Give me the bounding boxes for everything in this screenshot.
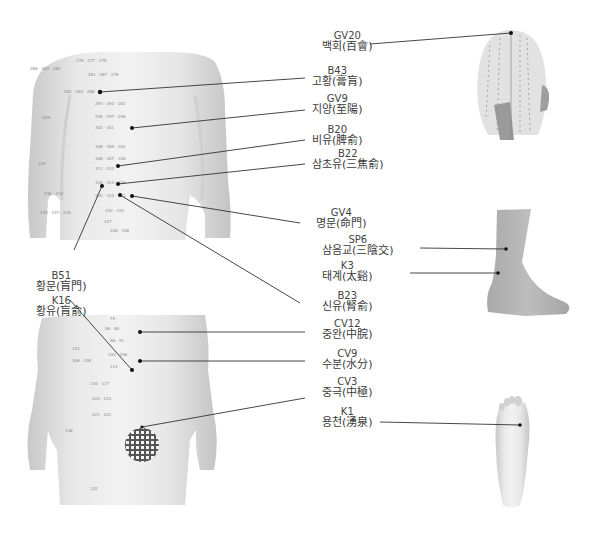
svg-text:121 · 122: 121 · 122 (92, 412, 112, 417)
svg-text:235 · 237 · 218: 235 · 237 · 218 (40, 210, 71, 215)
svg-text:288 · 283 · 282: 288 · 283 · 282 (30, 66, 61, 71)
svg-text:316 · 313 · 316: 316 · 313 · 316 (95, 180, 126, 185)
label-cv3: CV3중극(中極) (322, 376, 373, 399)
svg-text:116 · 117: 116 · 117 (90, 381, 110, 386)
foot-sole-figure (496, 396, 530, 508)
label-k1: K1용천(湧泉) (322, 406, 373, 429)
point-name: 신유(腎俞) (322, 301, 373, 313)
point-name: 용천(湧泉) (322, 417, 373, 429)
label-b43: B43고황(膏肓) (312, 65, 363, 88)
acupuncture-diagram: 276 · 277 · 278281 · 287 · 276 284 · 284… (0, 0, 601, 535)
label-sp6: SP6삼음교(三陰交) (322, 234, 394, 257)
svg-text:79 ·: 79 · (110, 316, 118, 321)
label-k3: K3태계(太谿) (322, 260, 373, 283)
svg-text:136: 136 (65, 428, 73, 433)
svg-text:276 · 277 · 278: 276 · 277 · 278 (76, 58, 107, 63)
label-b51: B51황문(肓門) (36, 270, 87, 293)
point-name: 지양(至陽) (312, 104, 363, 116)
point-name: 백회(百會) (322, 41, 373, 53)
point-name: 수분(水分) (322, 359, 373, 371)
label-gv9: GV9지양(至陽) (312, 93, 363, 116)
svg-text:293 · 292 · 281: 293 · 292 · 281 (95, 101, 126, 106)
svg-text:298 · 297 · 296: 298 · 297 · 296 (95, 114, 126, 119)
svg-text:302 · 301: 302 · 301 (95, 125, 115, 130)
point-name: 명문(命門) (316, 218, 367, 230)
front-torso-figure: 79 ·86 · 88 96 · 91102 · 106 114 ·116 · … (27, 315, 216, 505)
point-name: 삼초유(三焦俞) (312, 159, 384, 171)
back-torso-figure: 276 · 277 · 278281 · 287 · 276 284 · 284… (28, 52, 231, 240)
censor-patch (125, 428, 159, 462)
svg-text:236 · 234: 236 · 234 (44, 191, 64, 196)
svg-text:281 · 287 · 276: 281 · 287 · 276 (88, 72, 119, 77)
point-name: 황유(肓俞) (36, 306, 87, 318)
point-name: 중완(中脘) (322, 329, 373, 341)
svg-text:315: 315 (38, 161, 46, 166)
point-name: 비유(脾俞) (312, 135, 363, 147)
svg-text:96 · 91: 96 · 91 (110, 338, 124, 343)
svg-text:103: 103 (72, 346, 80, 351)
label-b20: B20비유(脾俞) (312, 124, 363, 147)
svg-text:308 · 307 · 336: 308 · 307 · 336 (95, 156, 126, 161)
label-k16: K16황유(肓俞) (36, 295, 87, 318)
svg-text:132: 132 (90, 486, 98, 491)
point-name: 태계(太谿) (322, 271, 373, 283)
lower-leg-figure (487, 209, 569, 316)
svg-text:114 ·: 114 · (110, 364, 120, 369)
svg-text:337: 337 (104, 219, 112, 224)
point-name: 황문(肓門) (36, 281, 87, 293)
point-name: 삼음교(三陰交) (322, 245, 394, 257)
svg-text:336 · 338: 336 · 338 (110, 228, 130, 233)
label-b22: B22삼초유(三焦俞) (312, 148, 384, 171)
head-back-figure (477, 30, 549, 140)
svg-text:308 · 309 · 302: 308 · 309 · 302 (95, 144, 126, 149)
point-name: 고황(膏肓) (312, 76, 363, 88)
svg-text:86 · 88: 86 · 88 (105, 326, 119, 331)
svg-text:311 · 312: 311 · 312 (95, 166, 115, 171)
label-gv4: GV4명문(命門) (316, 207, 367, 230)
svg-text:106 · 108: 106 · 108 (72, 358, 92, 363)
svg-text:330 · 331: 330 · 331 (105, 208, 125, 213)
svg-text:120 · 123: 120 · 123 (92, 396, 112, 401)
label-cv9: CV9수분(水分) (322, 348, 373, 371)
point-name: 중극(中極) (322, 387, 373, 399)
label-cv12: CV12중완(中脘) (322, 318, 373, 341)
label-gv20: GV20백회(百會) (322, 30, 373, 53)
label-b23: B23신유(腎俞) (322, 290, 373, 313)
svg-text:284 · 284 · 288: 284 · 284 · 288 (64, 89, 95, 94)
svg-text:· 299: · 299 (40, 115, 51, 120)
